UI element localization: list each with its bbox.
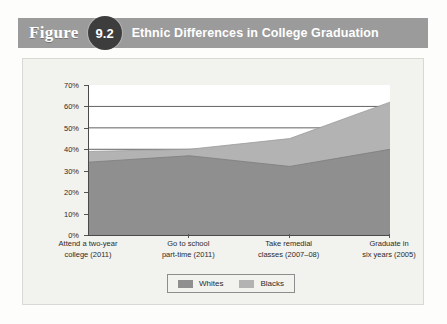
x-tick-mark bbox=[188, 234, 189, 238]
plot-wrapper: 0%10%20%30%40%50%60%70% bbox=[56, 85, 389, 235]
y-axis: 0%10%20%30%40%50%60%70% bbox=[56, 85, 84, 235]
legend-item: Whites bbox=[178, 279, 223, 288]
y-tick-label: 20% bbox=[64, 188, 79, 197]
legend-item: Blacks bbox=[239, 279, 284, 288]
x-tick-label-line: Attend a two-year bbox=[42, 239, 134, 250]
legend-swatch bbox=[239, 280, 254, 288]
x-tick-label: Take remedialclasses (2007–08) bbox=[243, 239, 335, 260]
x-tick-label-line: Graduate in bbox=[343, 239, 435, 250]
area-series-blacks bbox=[89, 149, 390, 235]
y-tick-label: 60% bbox=[64, 102, 79, 111]
x-tick-mark bbox=[289, 234, 290, 238]
x-tick-label: Graduate insix years (2005) bbox=[343, 239, 435, 260]
figure-number-badge: 9.2 bbox=[88, 16, 122, 50]
x-tick-mark bbox=[389, 234, 390, 238]
page-background: Figure 9.2 Ethnic Differences in College… bbox=[0, 0, 447, 324]
x-tick-label: Go to schoolpart-time (2011) bbox=[142, 239, 234, 260]
legend-swatch bbox=[178, 280, 193, 288]
chart-card: 0%10%20%30%40%50%60%70% Attend a two-yea… bbox=[22, 58, 424, 305]
y-tick-label: 40% bbox=[64, 145, 79, 154]
y-tick-label: 50% bbox=[64, 123, 79, 132]
x-tick-label-line: part-time (2011) bbox=[142, 250, 234, 261]
figure-title-text: Ethnic Differences in College Graduation bbox=[132, 26, 379, 40]
chart-legend: WhitesBlacks bbox=[167, 274, 295, 293]
x-tick-label: Attend a two-yearcollege (2011) bbox=[42, 239, 134, 260]
y-tick-label: 30% bbox=[64, 166, 79, 175]
legend-label: Blacks bbox=[260, 279, 284, 288]
figure-word-label: Figure bbox=[29, 23, 79, 43]
x-tick-label-line: six years (2005) bbox=[343, 250, 435, 261]
y-tick-label: 70% bbox=[64, 81, 79, 90]
figure-title-bar: Figure 9.2 Ethnic Differences in College… bbox=[18, 18, 428, 48]
plot-area bbox=[88, 85, 390, 236]
x-tick-label-line: Go to school bbox=[142, 239, 234, 250]
x-tick-label-line: classes (2007–08) bbox=[243, 250, 335, 261]
x-tick-label-line: college (2011) bbox=[42, 250, 134, 261]
area-chart-svg bbox=[89, 85, 390, 235]
x-tick-label-line: Take remedial bbox=[243, 239, 335, 250]
y-tick-label: 10% bbox=[64, 209, 79, 218]
legend-label: Whites bbox=[199, 279, 223, 288]
x-axis: Attend a two-yearcollege (2011)Go to sch… bbox=[88, 239, 389, 271]
